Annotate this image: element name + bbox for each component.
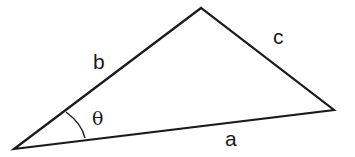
triangle-svg: b c a θ	[0, 0, 355, 157]
angle-theta-label: θ	[92, 107, 103, 129]
triangle-shape	[14, 8, 334, 149]
angle-arc	[66, 112, 85, 138]
triangle-diagram: b c a θ	[0, 0, 355, 157]
side-a-label: a	[225, 127, 237, 150]
side-c-label: c	[273, 25, 284, 48]
side-b-label: b	[93, 50, 105, 73]
